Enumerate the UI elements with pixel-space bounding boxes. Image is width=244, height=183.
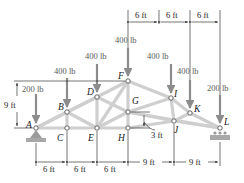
dimension-label-top-3: 6 ft [197, 10, 209, 20]
node-label-H: H [117, 133, 126, 143]
dimension-label-bottom-2: 6 ft [74, 164, 86, 174]
node-A [34, 126, 38, 130]
load-label-K: 400 lb [177, 66, 199, 76]
node-H [126, 126, 130, 130]
load-label-F: 400 lb [115, 35, 137, 45]
load-label-A: 200 lb [22, 84, 44, 94]
node-K [188, 111, 192, 115]
node-E [95, 126, 99, 130]
load-label-D: 400 lb [85, 51, 107, 61]
node-label-J: J [174, 125, 179, 135]
pin-support-icon [30, 130, 42, 138]
dimension-label-top-2: 6 ft [166, 10, 178, 20]
roller-icon [218, 131, 221, 134]
support-A [26, 130, 46, 142]
node-label-L: L [223, 117, 229, 127]
dimension-label-offset: 3 ft [151, 130, 163, 140]
dimension-label-bottom-4: 9 ft [143, 157, 155, 167]
node-label-K: K [193, 104, 201, 114]
load-label-L: 200 lb [207, 83, 229, 93]
node-I [169, 96, 173, 100]
node-B [65, 110, 69, 114]
member-BE [67, 112, 97, 128]
support-L [210, 131, 230, 140]
ground-hatch-icon [210, 135, 230, 140]
load-label-B: 400 lb [54, 66, 76, 76]
dimension-label-height: 9 ft [4, 100, 16, 110]
node-label-D: D [86, 87, 94, 97]
dimension-label-top-1: 6 ft [135, 10, 147, 20]
node-F [126, 79, 130, 83]
dimension-label-bottom-1: 6 ft [43, 164, 55, 174]
dimension-label-bottom-5: 9 ft [189, 157, 201, 167]
node-C [65, 126, 69, 130]
node-label-C: C [57, 133, 64, 143]
node-D [95, 95, 99, 99]
ground-hatch-icon [26, 138, 46, 142]
member-HJ [128, 121, 174, 128]
node-L [218, 126, 222, 130]
node-J [172, 119, 176, 123]
roller-icon [223, 131, 226, 134]
truss-diagram: 200 lb 400 lb 400 lb 400 lb 400 lb 400 l… [0, 0, 244, 183]
node-label-A: A [25, 120, 32, 130]
node-label-E: E [87, 133, 94, 143]
node-label-F: F [117, 71, 124, 81]
node-label-B: B [58, 102, 64, 112]
node-label-G: G [132, 96, 139, 106]
roller-icon [213, 131, 216, 134]
node-G [126, 110, 130, 114]
dimension-label-bottom-3: 6 ft [104, 164, 116, 174]
node-label-I: I [173, 89, 178, 99]
load-label-I: 400 lb [147, 51, 169, 61]
